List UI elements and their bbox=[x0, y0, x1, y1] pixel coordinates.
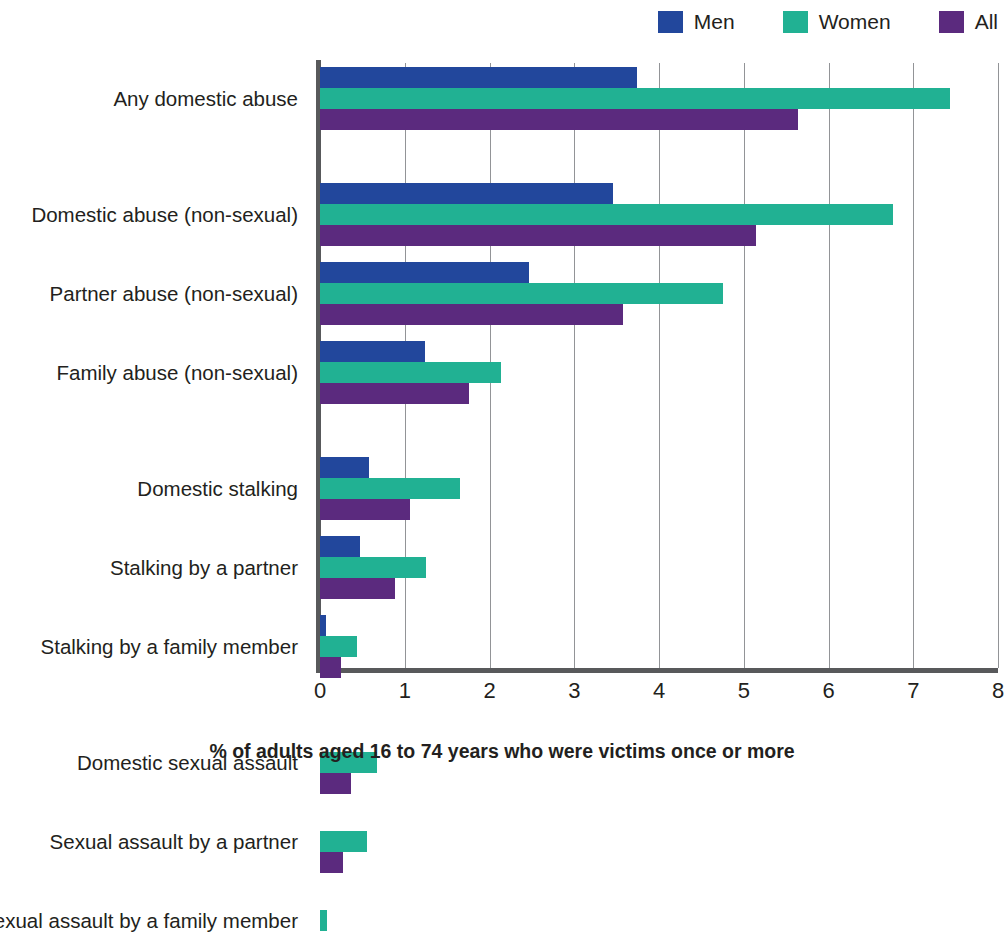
legend-item-all: All bbox=[939, 10, 998, 34]
bar-women-0 bbox=[320, 88, 950, 109]
x-tick-label-4: 4 bbox=[653, 678, 665, 704]
x-tick-label-6: 6 bbox=[822, 678, 834, 704]
x-tick-label-5: 5 bbox=[738, 678, 750, 704]
legend-swatch-icon-all bbox=[939, 11, 964, 33]
bar-all-6 bbox=[320, 657, 341, 678]
bar-women-6 bbox=[320, 636, 357, 657]
category-label-0: Any domestic abuse bbox=[113, 87, 298, 111]
bar-men-4 bbox=[320, 457, 369, 478]
category-label-1: Domestic abuse (non-sexual) bbox=[31, 203, 298, 227]
bar-all-5 bbox=[320, 578, 395, 599]
bar-men-0 bbox=[320, 67, 637, 88]
bar-men-2 bbox=[320, 262, 529, 283]
bar-all-7 bbox=[320, 773, 351, 794]
bar-women-9 bbox=[320, 910, 327, 931]
bar-women-5 bbox=[320, 557, 426, 578]
legend-label-all: All bbox=[975, 10, 998, 34]
x-tick-label-1: 1 bbox=[399, 678, 411, 704]
category-label-4: Domestic stalking bbox=[137, 477, 298, 501]
category-label-9: Sexual assault by a family member bbox=[0, 909, 298, 933]
bar-all-0 bbox=[320, 109, 798, 130]
category-label-8: Sexual assault by a partner bbox=[50, 830, 298, 854]
legend-swatch-icon-women bbox=[783, 11, 808, 33]
gridline-3 bbox=[574, 63, 575, 668]
bar-all-1 bbox=[320, 225, 756, 246]
bar-men-6 bbox=[320, 615, 326, 636]
bar-women-4 bbox=[320, 478, 460, 499]
x-axis-caption: % of adults aged 16 to 74 years who were… bbox=[0, 740, 1004, 763]
bar-women-2 bbox=[320, 283, 723, 304]
bar-all-2 bbox=[320, 304, 623, 325]
x-tick-label-3: 3 bbox=[568, 678, 580, 704]
gridline-8 bbox=[998, 63, 999, 668]
legend-item-women: Women bbox=[783, 10, 891, 34]
legend-item-men: Men bbox=[658, 10, 735, 34]
bar-women-8 bbox=[320, 831, 367, 852]
category-label-6: Stalking by a family member bbox=[41, 635, 298, 659]
x-tick-label-2: 2 bbox=[483, 678, 495, 704]
category-label-5: Stalking by a partner bbox=[110, 556, 298, 580]
bar-women-1 bbox=[320, 204, 893, 225]
category-label-2: Partner abuse (non-sexual) bbox=[50, 282, 298, 306]
chart-legend: Men Women All bbox=[0, 8, 1004, 36]
category-label-3: Family abuse (non-sexual) bbox=[56, 361, 298, 385]
bar-men-3 bbox=[320, 341, 425, 362]
bar-all-4 bbox=[320, 499, 410, 520]
x-tick-label-8: 8 bbox=[992, 678, 1004, 704]
gridline-7 bbox=[913, 63, 914, 668]
legend-swatch-icon-men bbox=[658, 11, 683, 33]
x-axis-line bbox=[316, 668, 998, 673]
legend-label-women: Women bbox=[819, 10, 891, 34]
bar-all-8 bbox=[320, 852, 343, 873]
bar-women-3 bbox=[320, 362, 501, 383]
bar-men-1 bbox=[320, 183, 613, 204]
legend-label-men: Men bbox=[694, 10, 735, 34]
x-tick-label-7: 7 bbox=[907, 678, 919, 704]
bar-men-5 bbox=[320, 536, 360, 557]
x-tick-label-0: 0 bbox=[314, 678, 326, 704]
bar-all-3 bbox=[320, 383, 469, 404]
gridline-5 bbox=[744, 63, 745, 668]
gridline-4 bbox=[659, 63, 660, 668]
gridline-6 bbox=[829, 63, 830, 668]
bar-chart: 012345678 Any domestic abuseDomestic abu… bbox=[0, 40, 1004, 728]
